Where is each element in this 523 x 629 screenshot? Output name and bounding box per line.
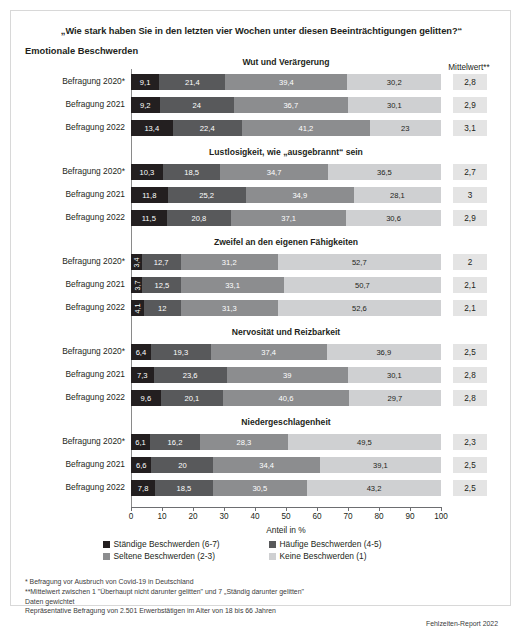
bar-segment[interactable]: 13,4 — [131, 120, 173, 136]
chart-row: Befragung 20216,62034,439,12,5 — [11, 455, 512, 478]
stacked-bar[interactable]: 3,712,533,150,7 — [131, 277, 441, 293]
bar-segment[interactable]: 21,4 — [159, 74, 225, 90]
bar-segment[interactable]: 34,4 — [213, 457, 320, 473]
bar-segment-value: 20,8 — [191, 214, 206, 223]
bar-segment[interactable]: 11,8 — [131, 187, 168, 203]
chart-row-label: Befragung 2022 — [11, 302, 125, 312]
bar-segment[interactable]: 37,1 — [231, 210, 346, 226]
mean-value: 2,5 — [453, 344, 487, 360]
axis-tick-label: 70 — [333, 512, 363, 521]
legend-swatch-icon — [103, 541, 110, 548]
bar-segment[interactable]: 11,5 — [131, 210, 167, 226]
bar-segment[interactable]: 20 — [151, 457, 213, 473]
bar-segment[interactable]: 20,8 — [167, 210, 231, 226]
bar-segment[interactable]: 36,5 — [328, 164, 441, 180]
stacked-bar[interactable]: 13,422,441,223 — [131, 120, 441, 136]
chart-row-label: Befragung 2022 — [11, 392, 125, 402]
bar-segment[interactable]: 3,4 — [131, 254, 142, 270]
legend-label: Keine Beschwerden (1) — [280, 551, 367, 561]
stacked-bar[interactable]: 10,318,534,736,5 — [131, 164, 441, 180]
bar-segment[interactable]: 18,5 — [163, 164, 220, 180]
stacked-bar[interactable]: 11,520,837,130,6 — [131, 210, 441, 226]
bar-segment[interactable]: 12,7 — [142, 254, 181, 270]
legend-item[interactable]: Ständige Beschwerden (6-7) — [103, 539, 255, 549]
legend-item[interactable]: Seltene Beschwerden (2-3) — [103, 551, 255, 561]
stacked-bar[interactable]: 7,818,530,543,2 — [131, 480, 441, 496]
bar-segment-value: 20,1 — [185, 394, 200, 403]
axis-tick — [348, 507, 349, 511]
chart-row-label: Befragung 2021 — [11, 99, 125, 109]
bar-segment[interactable]: 43,2 — [307, 480, 441, 496]
bar-segment[interactable]: 22,4 — [173, 120, 242, 136]
bar-segment[interactable]: 40,6 — [223, 390, 349, 406]
mean-value: 2,8 — [453, 390, 487, 406]
bar-segment[interactable]: 23,6 — [154, 367, 227, 383]
bar-segment[interactable]: 9,6 — [131, 390, 161, 406]
bar-segment[interactable]: 52,6 — [278, 300, 441, 316]
legend-item[interactable]: Häufige Beschwerden (4-5) — [269, 539, 421, 549]
bar-segment[interactable]: 10,3 — [131, 164, 163, 180]
bar-segment[interactable]: 28,1 — [354, 187, 441, 203]
bar-segment[interactable]: 34,7 — [220, 164, 328, 180]
stacked-bar[interactable]: 9,620,140,629,7 — [131, 390, 441, 406]
bar-segment[interactable]: 41,2 — [242, 120, 370, 136]
bar-segment[interactable]: 25,2 — [168, 187, 246, 203]
bar-segment[interactable]: 31,2 — [181, 254, 278, 270]
axis-tick-label: 80 — [364, 512, 394, 521]
stacked-bar[interactable]: 3,412,731,252,7 — [131, 254, 441, 270]
bar-segment[interactable]: 24 — [160, 97, 234, 113]
bar-segment[interactable]: 12 — [144, 300, 181, 316]
stacked-bar[interactable]: 6,116,228,349,5 — [131, 434, 441, 450]
bar-segment[interactable]: 30,6 — [346, 210, 441, 226]
stacked-bar[interactable]: 7,323,63930,1 — [131, 367, 441, 383]
bar-segment[interactable]: 30,1 — [348, 367, 441, 383]
stacked-bar[interactable]: 11,825,234,928,1 — [131, 187, 441, 203]
bar-segment[interactable]: 31,3 — [181, 300, 278, 316]
bar-segment[interactable]: 52,7 — [278, 254, 441, 270]
bar-segment[interactable]: 33,1 — [181, 277, 284, 293]
bar-segment[interactable]: 4,1 — [131, 300, 144, 316]
bar-segment[interactable]: 6,4 — [131, 344, 151, 360]
bar-segment[interactable]: 9,1 — [131, 74, 159, 90]
bar-segment[interactable]: 39 — [227, 367, 348, 383]
chart-row: Befragung 202111,825,234,928,13 — [11, 185, 512, 208]
bar-segment[interactable]: 39,1 — [320, 457, 441, 473]
bar-segment[interactable]: 7,8 — [131, 480, 155, 496]
bar-segment[interactable]: 3,7 — [131, 277, 142, 293]
bar-segment[interactable]: 23 — [370, 120, 441, 136]
bar-segment[interactable]: 20,1 — [161, 390, 223, 406]
bar-segment[interactable]: 7,3 — [131, 367, 154, 383]
bar-segment[interactable]: 36,7 — [234, 97, 348, 113]
bar-segment[interactable]: 19,3 — [151, 344, 211, 360]
bar-segment[interactable]: 39,4 — [225, 74, 347, 90]
bar-segment[interactable]: 18,5 — [155, 480, 212, 496]
bar-segment[interactable]: 34,9 — [246, 187, 354, 203]
bar-segment[interactable]: 6,6 — [131, 457, 151, 473]
bar-segment[interactable]: 28,3 — [200, 434, 288, 450]
bar-segment[interactable]: 49,5 — [288, 434, 441, 450]
bar-segment[interactable]: 36,9 — [327, 344, 441, 360]
bar-segment[interactable]: 30,1 — [348, 97, 441, 113]
bar-segment[interactable]: 37,4 — [211, 344, 327, 360]
bar-segment-value: 36,5 — [377, 168, 392, 177]
bar-segment-value: 7,8 — [138, 484, 149, 493]
bar-segment[interactable]: 12,5 — [142, 277, 181, 293]
stacked-bar[interactable]: 6,62034,439,1 — [131, 457, 441, 473]
stacked-bar[interactable]: 6,419,337,436,9 — [131, 344, 441, 360]
bar-segment-value: 30,1 — [387, 101, 402, 110]
bar-segment[interactable]: 9,2 — [131, 97, 160, 113]
chart-row-label: Befragung 2022 — [11, 212, 125, 222]
bar-segment[interactable]: 50,7 — [284, 277, 441, 293]
bar-segment-value: 3,7 — [132, 280, 141, 290]
stacked-bar[interactable]: 4,11231,352,6 — [131, 300, 441, 316]
axis-tick-label: 0 — [116, 512, 146, 521]
bar-segment[interactable]: 29,7 — [349, 390, 441, 406]
bar-segment[interactable]: 30,5 — [213, 480, 308, 496]
stacked-bar[interactable]: 9,121,439,430,2 — [131, 74, 441, 90]
legend-item[interactable]: Keine Beschwerden (1) — [269, 551, 421, 561]
bar-segment[interactable]: 16,2 — [150, 434, 200, 450]
bar-segment-value: 9,6 — [141, 394, 152, 403]
bar-segment[interactable]: 6,1 — [131, 434, 150, 450]
bar-segment[interactable]: 30,2 — [347, 74, 441, 90]
stacked-bar[interactable]: 9,22436,730,1 — [131, 97, 441, 113]
